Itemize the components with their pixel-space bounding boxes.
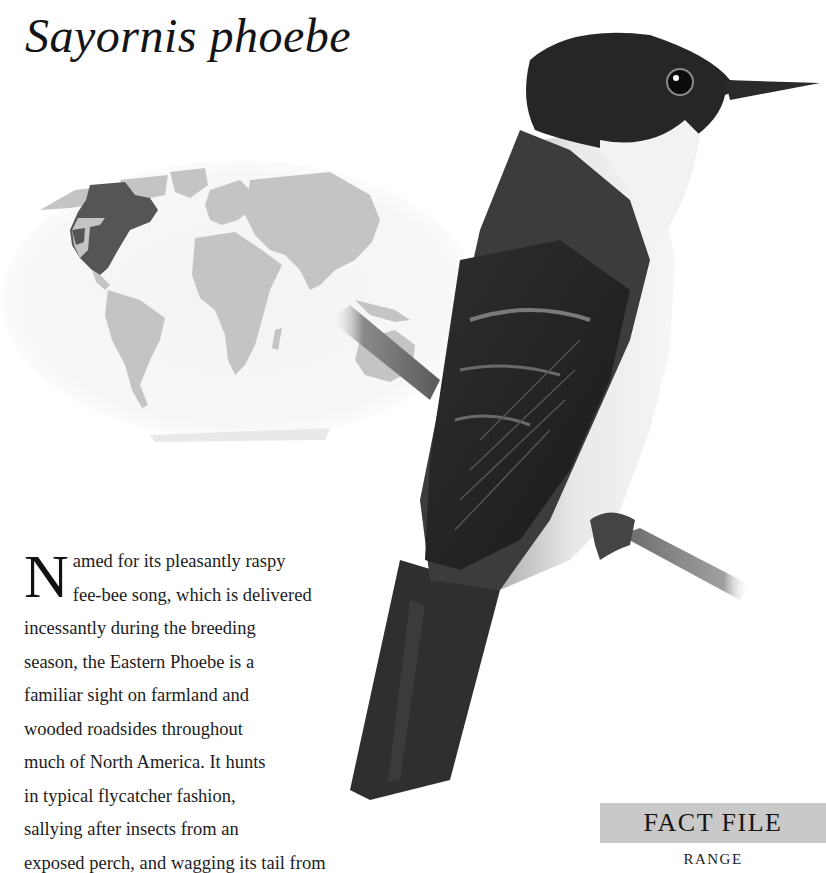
text-line: wooded roadsides throughout [24, 713, 419, 747]
text-line: fee-bee song, which is delivered [24, 579, 419, 613]
text-line: incessantly during the breeding [24, 612, 419, 646]
fact-file-box: FACT FILE RANGE [600, 803, 826, 873]
text-line: in typical flycatcher fashion, [24, 780, 419, 814]
species-title: Sayornis phoebe [25, 10, 351, 63]
text-line: much of North America. It hunts [24, 746, 419, 780]
text-line: sallying after insects from an [24, 813, 419, 847]
fact-file-header: FACT FILE [600, 803, 826, 843]
species-description: N amed for its pleasantly raspy fee-bee … [24, 545, 419, 873]
fact-file-range-heading: RANGE [600, 843, 826, 868]
text-line: amed for its pleasantly raspy [24, 545, 419, 579]
text-line: season, the Eastern Phoebe is a [24, 646, 419, 680]
text-line: exposed perch, and wagging its tail from [24, 847, 419, 873]
drop-cap: N [24, 551, 69, 601]
text-line: familiar sight on farmland and [24, 679, 419, 713]
